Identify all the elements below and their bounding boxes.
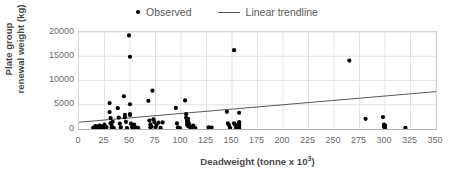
data-point	[124, 120, 128, 124]
observed-points	[91, 33, 407, 129]
data-point	[123, 115, 127, 119]
legend-label-trendline: Linear trendline	[246, 6, 318, 18]
data-point	[150, 89, 154, 93]
data-point	[381, 115, 385, 119]
data-point	[109, 116, 113, 120]
data-point	[347, 59, 351, 63]
data-point	[128, 55, 132, 59]
legend-dot-icon	[136, 10, 140, 14]
y-axis-title-line2: renewal weight (kg)	[15, 4, 28, 93]
y-tick-label: 15000	[30, 51, 74, 60]
data-point	[149, 124, 153, 128]
data-point	[364, 117, 368, 121]
plot-svg	[79, 32, 436, 129]
data-point	[122, 94, 126, 98]
y-axis-title-line1: Plate group	[3, 23, 16, 76]
y-tick-label: 5000	[30, 99, 74, 108]
data-point	[175, 121, 179, 125]
data-point	[125, 126, 129, 129]
data-point	[119, 125, 123, 129]
data-point	[146, 99, 150, 103]
y-axis-title: Plate group renewal weight (kg)	[0, 0, 30, 103]
data-point	[104, 125, 108, 129]
data-point	[237, 111, 241, 115]
data-point	[117, 116, 121, 120]
data-point	[156, 121, 160, 125]
chart-legend: Observed Linear trendline	[0, 3, 454, 21]
data-point	[116, 106, 120, 110]
data-point	[108, 110, 112, 114]
scatter-chart: Observed Linear trendline Plate group re…	[0, 0, 454, 177]
y-tick-label: 10000	[30, 75, 74, 84]
x-axis-title: Deadweight (tonne x 103)	[78, 155, 437, 167]
plot-area	[78, 31, 437, 130]
data-point	[403, 126, 407, 129]
legend-item-observed: Observed	[136, 6, 192, 18]
data-point	[127, 33, 131, 37]
x-axis-title-text: Deadweight (tonne x 103)	[200, 156, 314, 167]
data-point	[225, 110, 229, 114]
data-point	[159, 126, 163, 129]
data-point	[111, 120, 115, 124]
data-point	[128, 113, 132, 117]
data-point	[108, 101, 112, 105]
data-point	[118, 122, 122, 126]
data-point	[183, 98, 187, 102]
gridlines	[79, 32, 436, 129]
data-point	[147, 118, 151, 122]
data-point	[184, 112, 188, 116]
data-point	[161, 120, 165, 124]
legend-label-observed: Observed	[146, 6, 192, 18]
data-point	[232, 48, 236, 52]
legend-item-trendline: Linear trendline	[218, 6, 318, 18]
data-point	[128, 102, 132, 106]
y-tick-label: 20000	[30, 27, 74, 36]
data-point	[174, 106, 178, 110]
x-tick-label: 350	[420, 136, 450, 145]
legend-line-icon	[218, 12, 240, 13]
y-tick-label: 0	[30, 124, 74, 133]
